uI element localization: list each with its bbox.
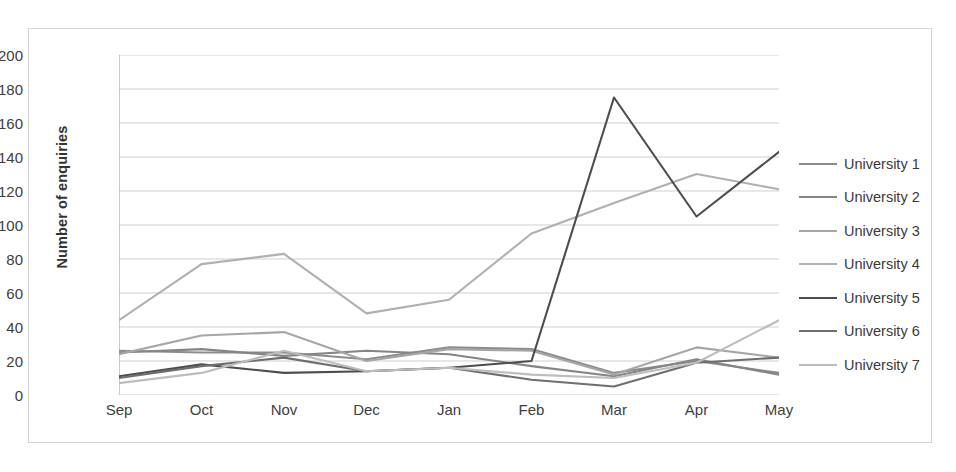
legend-item-5[interactable]: University 5	[799, 281, 949, 315]
plot-area-wrapper	[119, 55, 779, 395]
x-tick-label: Sep	[106, 401, 133, 418]
y-axis-title: Number of enquiries	[54, 102, 70, 292]
y-tick-label: 60	[0, 285, 23, 302]
legend-line-swatch-icon	[799, 163, 837, 165]
x-tick-label: Mar	[601, 401, 627, 418]
y-tick-label: 80	[0, 251, 23, 268]
y-tick-label: 40	[0, 319, 23, 336]
x-tick-label: Apr	[685, 401, 708, 418]
x-tick-label: Nov	[271, 401, 298, 418]
legend-line-swatch-icon	[799, 230, 837, 232]
series-line-4[interactable]	[119, 174, 779, 320]
y-tick-label: 100	[0, 217, 23, 234]
legend-item-2[interactable]: University 2	[799, 181, 949, 215]
legend-item-7[interactable]: University 7	[799, 348, 949, 382]
x-tick-label: Feb	[519, 401, 545, 418]
legend-line-swatch-icon	[799, 196, 837, 198]
legend-line-swatch-icon	[799, 263, 837, 265]
legend-label: University 3	[844, 223, 920, 239]
chart-frame: Number of enquiries 02040608010012014016…	[28, 28, 932, 443]
legend-label: University 7	[844, 357, 920, 373]
legend-label: University 2	[844, 189, 920, 205]
y-tick-label: 140	[0, 149, 23, 166]
legend-label: University 4	[844, 256, 920, 272]
legend-item-6[interactable]: University 6	[799, 315, 949, 349]
x-tick-label: Oct	[190, 401, 213, 418]
legend-item-4[interactable]: University 4	[799, 248, 949, 282]
legend-label: University 6	[844, 323, 920, 339]
legend-item-1[interactable]: University 1	[799, 147, 949, 181]
y-tick-label: 160	[0, 115, 23, 132]
legend-label: University 5	[844, 290, 920, 306]
legend-item-3[interactable]: University 3	[799, 214, 949, 248]
legend-line-swatch-icon	[799, 330, 837, 332]
chart-legend: University 1University 2University 3Univ…	[799, 147, 949, 382]
x-tick-label: May	[765, 401, 793, 418]
y-tick-label: 20	[0, 353, 23, 370]
x-axis-tick-labels: SepOctNovDecJanFebMarAprMay	[119, 401, 779, 431]
x-tick-label: Dec	[353, 401, 380, 418]
x-tick-label: Jan	[437, 401, 461, 418]
line-chart-plot	[119, 55, 779, 395]
legend-label: University 1	[844, 156, 920, 172]
legend-line-swatch-icon	[799, 297, 837, 299]
y-tick-label: 200	[0, 47, 23, 64]
y-tick-label: 0	[0, 387, 23, 404]
y-tick-label: 120	[0, 183, 23, 200]
legend-line-swatch-icon	[799, 364, 837, 366]
y-tick-label: 180	[0, 81, 23, 98]
